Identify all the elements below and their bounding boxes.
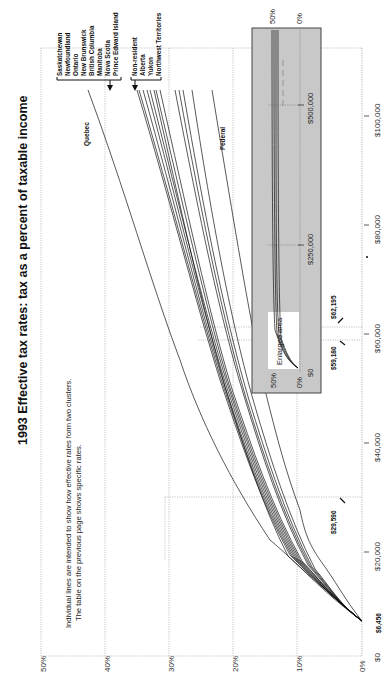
- svg-text:$0: $0: [306, 369, 315, 377]
- svg-text:$60,000: $60,000: [373, 324, 382, 353]
- svg-text:Nova Scotia: Nova Scotia: [104, 39, 111, 76]
- svg-text:British Columbia: British Columbia: [88, 25, 95, 76]
- svg-text:20%: 20%: [231, 656, 240, 672]
- svg-text:30%: 30%: [167, 656, 176, 672]
- svg-text:Prince Edward Island: Prince Edward Island: [112, 12, 119, 76]
- svg-text:Saskatchewan: Saskatchewan: [56, 32, 63, 76]
- svg-text:40%: 40%: [103, 656, 112, 672]
- svg-text:Ontario: Ontario: [72, 53, 79, 76]
- threshold-arrows: [338, 318, 345, 503]
- svg-text:$100,000: $100,000: [373, 103, 382, 137]
- threshold-62195: $62,195: [330, 295, 338, 319]
- svg-text:0%: 0%: [295, 13, 304, 24]
- x-tick-labels: $0 $20,000 $40,000 $60,000 $80,000 $100,…: [373, 103, 382, 662]
- svg-text:$80,000: $80,000: [373, 215, 382, 244]
- svg-text:$500,000: $500,000: [306, 93, 315, 124]
- svg-text:Manitoba: Manitoba: [96, 48, 103, 76]
- inset-chart: Enlarged area 50% 0% $0 $250,000 $500,00…: [252, 9, 321, 393]
- svg-text:50%: 50%: [269, 373, 278, 388]
- svg-text:$20,000: $20,000: [373, 542, 382, 571]
- svg-text:0%: 0%: [295, 377, 304, 388]
- svg-text:Enlarged area: Enlarged area: [275, 317, 284, 365]
- legend: Saskatchewan Newfoundland Ontario New Br…: [56, 12, 162, 91]
- chart-svg: 1993 Effective tax rates: tax as a perce…: [0, 0, 389, 682]
- svg-text:Newfoundland: Newfoundland: [64, 32, 71, 76]
- svg-text:50%: 50%: [39, 656, 48, 672]
- dot-mark: [366, 256, 368, 258]
- note-line2: The table on the previous page shows spe…: [74, 444, 83, 621]
- svg-text:Alberta: Alberta: [139, 54, 146, 76]
- threshold-29590: $29,590: [330, 510, 338, 534]
- svg-text:0%: 0%: [358, 660, 367, 672]
- svg-text:$250,000: $250,000: [306, 234, 315, 265]
- svg-text:$0: $0: [373, 653, 382, 662]
- threshold-59180: $59,180: [330, 346, 338, 370]
- svg-text:Northwest Territories: Northwest Territories: [155, 12, 162, 76]
- curve-saskatchewan: [137, 90, 362, 621]
- svg-text:New Brunswick: New Brunswick: [80, 29, 87, 76]
- svg-text:Non-resident: Non-resident: [131, 36, 138, 76]
- chart-title: 1993 Effective tax rates: tax as a perce…: [16, 95, 30, 445]
- note-line1: Individual lines are intended to show ho…: [64, 379, 73, 628]
- curve-newfoundland: [139, 90, 362, 621]
- svg-text:Yukon: Yukon: [147, 57, 154, 76]
- chart-container: 1993 Effective tax rates: tax as a perce…: [0, 0, 389, 682]
- label-federal: Federal: [219, 127, 226, 150]
- svg-text:50%: 50%: [268, 9, 277, 24]
- x-tick-marks: [364, 116, 369, 552]
- y-tick-labels: 50% 40% 30% 20% 10% 0%: [39, 656, 367, 672]
- svg-text:10%: 10%: [295, 656, 304, 672]
- label-quebec: Quebec: [83, 122, 91, 146]
- threshold-6456: $6,456: [375, 613, 383, 633]
- svg-text:$40,000: $40,000: [373, 433, 382, 462]
